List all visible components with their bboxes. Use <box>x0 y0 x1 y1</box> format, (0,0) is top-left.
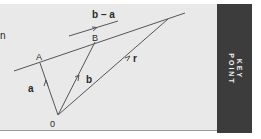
arrow-r-icon <box>125 56 130 61</box>
partial-text: n <box>0 30 6 41</box>
label-vector-b: b <box>86 74 92 85</box>
label-point-a: A <box>36 52 42 62</box>
key-point-line1: KEY <box>235 53 243 84</box>
label-origin: 0 <box>50 119 55 129</box>
label-vector-a: a <box>28 83 34 94</box>
arrow-a-icon <box>44 80 48 86</box>
key-point-line2: POINT <box>227 53 235 84</box>
key-point-tab: KEY POINT <box>217 4 252 133</box>
label-point-b: B <box>92 33 98 43</box>
vector-r-line <box>58 19 168 115</box>
vector-line-diagram: n A B 0 a b r b – a <box>0 0 217 139</box>
key-point-label: KEY POINT <box>227 53 243 84</box>
label-vector-r: r <box>133 53 137 64</box>
line-through-a-b <box>14 13 185 71</box>
vector-a-line <box>40 63 58 115</box>
label-b-minus-a: b – a <box>92 9 115 20</box>
